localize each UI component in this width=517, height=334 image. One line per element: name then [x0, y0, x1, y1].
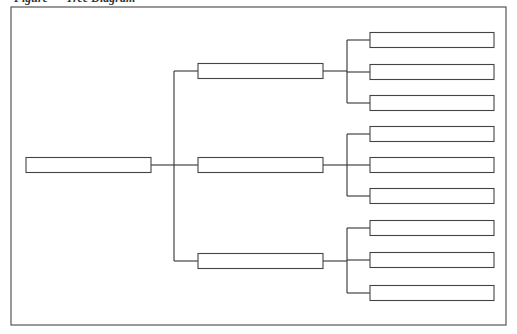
level2-node-3-2 [370, 253, 494, 268]
level2-node-3-3-box [370, 286, 494, 301]
level1-node-2 [198, 158, 323, 173]
level1-node-3 [198, 254, 323, 269]
level2-node-3-1-box [370, 221, 494, 236]
level1-node-1-box [198, 64, 323, 79]
level2-node-1-1 [370, 33, 494, 48]
level2-node-2-1 [370, 127, 494, 142]
level2-node-1-1-box [370, 33, 494, 48]
level2-node-3-2-box [370, 253, 494, 268]
level2-node-3-1 [370, 221, 494, 236]
tree-diagram [0, 0, 517, 334]
level2-node-1-3-box [370, 96, 494, 111]
level2-node-2-2-box [370, 158, 494, 173]
level2-node-3-3 [370, 286, 494, 301]
tree-nodes [26, 33, 494, 301]
level2-node-1-3 [370, 96, 494, 111]
level2-node-2-1-box [370, 127, 494, 142]
level1-node-3-box [198, 254, 323, 269]
level2-node-2-3 [370, 189, 494, 204]
root-node-box [26, 158, 151, 173]
level2-node-1-2 [370, 65, 494, 80]
level2-node-1-2-box [370, 65, 494, 80]
level2-node-2-2 [370, 158, 494, 173]
root-node [26, 158, 151, 173]
level2-node-2-3-box [370, 189, 494, 204]
level1-node-2-box [198, 158, 323, 173]
level1-node-1 [198, 64, 323, 79]
